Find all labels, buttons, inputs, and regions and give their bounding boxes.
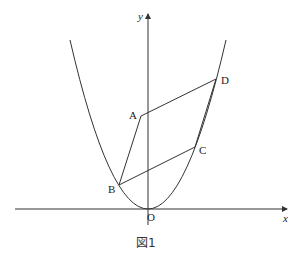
x-axis-label: x [282, 212, 288, 224]
point-d-label: D [221, 74, 229, 86]
origin-label: O [147, 211, 155, 223]
point-b-label: B [108, 183, 115, 195]
parallelogram-abcd [119, 79, 216, 185]
y-axis-label: y [137, 10, 143, 22]
point-c-label: C [199, 144, 206, 156]
point-a-label: A [129, 109, 137, 121]
parabola-parallelogram-diagram: x y O A B C D 図1 [0, 0, 300, 258]
figure-caption: 図1 [136, 236, 156, 250]
